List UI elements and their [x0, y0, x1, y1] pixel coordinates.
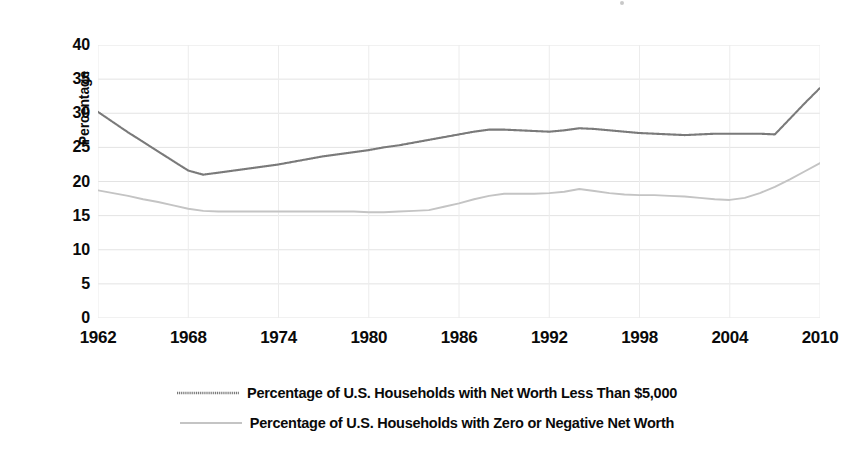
- scan-artifact-speck: [620, 1, 624, 5]
- y-axis-tick-35: 35: [38, 71, 90, 87]
- y-axis-tick-25: 25: [38, 139, 90, 155]
- x-axis-tick-1968: 1968: [143, 328, 233, 348]
- gridlines: [98, 45, 820, 318]
- plot-canvas: [98, 45, 820, 318]
- y-axis-tick-10: 10: [38, 242, 90, 258]
- x-axis-tick-1962: 1962: [53, 328, 143, 348]
- y-axis-tick-0: 0: [38, 310, 90, 326]
- y-axis-tick-labels: 4035302520151050: [38, 0, 90, 340]
- plot-area: [98, 45, 820, 318]
- legend-item-1[interactable]: Percentage of U.S. Households with Zero …: [0, 408, 854, 438]
- x-axis-tick-2004: 2004: [685, 328, 775, 348]
- y-axis-tick-5: 5: [38, 276, 90, 292]
- y-axis-tick-40: 40: [38, 37, 90, 53]
- legend-label-1: Percentage of U.S. Households with Zero …: [250, 415, 674, 431]
- dotted-line-swatch: [177, 386, 239, 400]
- x-axis-tick-1992: 1992: [504, 328, 594, 348]
- x-axis-tick-1974: 1974: [234, 328, 324, 348]
- solid-line-swatch: [180, 416, 242, 430]
- y-axis-tick-20: 20: [38, 174, 90, 190]
- x-axis-tick-2010: 2010: [775, 328, 854, 348]
- line-chart: Percentage 4035302520151050 196219681974…: [0, 0, 854, 455]
- legend-label-0: Percentage of U.S. Households with Net W…: [247, 385, 677, 401]
- y-axis-tick-30: 30: [38, 105, 90, 121]
- x-axis-tick-1998: 1998: [595, 328, 685, 348]
- x-axis-tick-1986: 1986: [414, 328, 504, 348]
- x-axis-tick-1980: 1980: [324, 328, 414, 348]
- chart-legend: Percentage of U.S. Households with Net W…: [0, 378, 854, 438]
- legend-item-0[interactable]: Percentage of U.S. Households with Net W…: [0, 378, 854, 408]
- x-axis-tick-labels: 196219681974198019861992199820042010: [0, 328, 854, 358]
- y-axis-tick-15: 15: [38, 208, 90, 224]
